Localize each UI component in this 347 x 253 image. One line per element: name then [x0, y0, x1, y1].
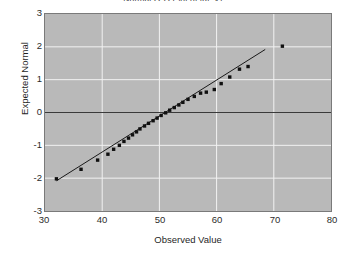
- x-tick-label: 50: [143, 215, 177, 225]
- x-axis-tick-labels: 30 40 50 60 70 80: [0, 0, 347, 253]
- x-tick-label: 80: [315, 215, 347, 225]
- y-axis-title: Expected Normal: [19, 9, 30, 149]
- x-tick-label: 40: [85, 215, 119, 225]
- x-tick-label: 60: [200, 215, 234, 225]
- qq-plot-figure: Normal Q-Q Plot of fat_v1 3 2 1 0 -1 -2 …: [0, 0, 347, 253]
- x-axis-title: Observed Value: [44, 234, 332, 245]
- x-tick-label: 70: [258, 215, 292, 225]
- x-tick-label: 30: [27, 215, 61, 225]
